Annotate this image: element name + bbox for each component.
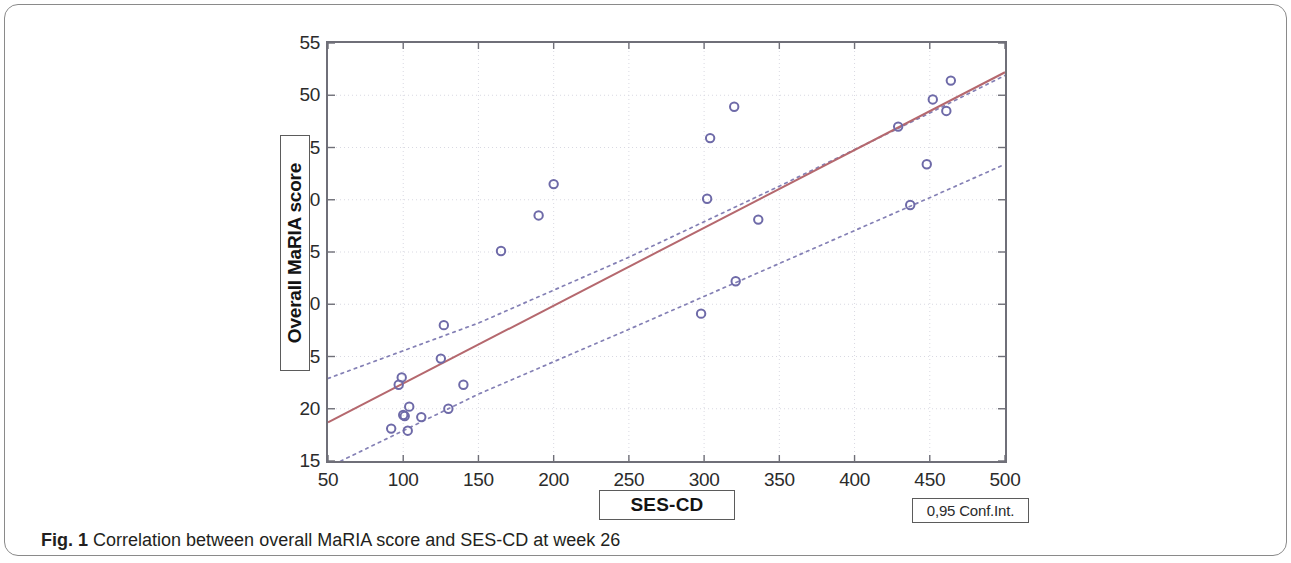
x-tick-label: 100 xyxy=(373,469,433,491)
data-point xyxy=(754,215,762,223)
x-tick-label: 200 xyxy=(524,469,584,491)
y-axis-title-box: Overall MaRIA score xyxy=(280,135,310,371)
data-point xyxy=(906,201,914,209)
figure-page: 152025303540455055 Overall MaRIA score 5… xyxy=(0,0,1291,563)
data-point xyxy=(437,354,445,362)
regression-line xyxy=(328,72,1005,422)
data-point xyxy=(947,76,955,84)
x-tick-label: 300 xyxy=(674,469,734,491)
data-point xyxy=(923,160,931,168)
conf-band-lower xyxy=(328,164,1005,461)
data-point xyxy=(398,373,406,381)
gridlines xyxy=(328,43,1005,461)
x-axis-title-box: SES-CD xyxy=(599,490,735,520)
y-axis-title: Overall MaRIA score xyxy=(284,163,306,343)
figure-caption-text: Correlation between overall MaRIA score … xyxy=(93,530,620,550)
x-tick-label: 400 xyxy=(825,469,885,491)
figure-caption-label: Fig. 1 xyxy=(41,530,88,550)
tick-marks xyxy=(328,43,1005,461)
x-tick-label: 500 xyxy=(975,469,1035,491)
scatter-plot xyxy=(326,41,1007,463)
x-tick-label: 250 xyxy=(599,469,659,491)
data-points xyxy=(387,76,955,434)
data-point xyxy=(534,211,542,219)
y-tick-label: 20 xyxy=(286,398,320,420)
x-tick-label: 50 xyxy=(298,469,358,491)
data-point xyxy=(440,321,448,329)
legend-conf-int-label: 0,95 Conf.Int. xyxy=(927,502,1014,519)
figure-caption: Fig. 1 Correlation between overall MaRIA… xyxy=(41,530,1221,551)
data-point xyxy=(497,247,505,255)
data-point xyxy=(942,107,950,115)
data-point xyxy=(405,402,413,410)
x-tick-label: 150 xyxy=(448,469,508,491)
conf-band-upper xyxy=(328,75,1005,378)
x-axis-title: SES-CD xyxy=(631,494,704,516)
figure-frame: 152025303540455055 Overall MaRIA score 5… xyxy=(4,4,1287,556)
plot-svg xyxy=(328,43,1005,461)
plot-inner xyxy=(328,43,1005,461)
x-tick-label: 450 xyxy=(900,469,960,491)
legend-box: 0,95 Conf.Int. xyxy=(912,498,1029,523)
data-point xyxy=(459,381,467,389)
data-point xyxy=(730,103,738,111)
data-point xyxy=(706,134,714,142)
data-point xyxy=(417,413,425,421)
y-tick-label: 55 xyxy=(286,32,320,54)
data-point xyxy=(697,309,705,317)
data-point xyxy=(703,195,711,203)
data-point xyxy=(387,424,395,432)
y-tick-label: 50 xyxy=(286,84,320,106)
x-tick-label: 350 xyxy=(749,469,809,491)
